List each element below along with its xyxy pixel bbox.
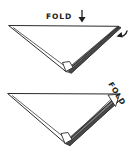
diagram-canvas: FOLD: [0, 0, 131, 158]
step-2-left-crease: [13, 96, 69, 141]
step-2-right-crease: [69, 97, 114, 140]
step-1-curl-arrow-icon: [117, 31, 128, 38]
step-1-fold-label: FOLD: [46, 12, 72, 21]
fold-instruction-illustration: FOLD: [0, 0, 131, 158]
step-1-left-crease: [14, 28, 70, 70]
step-1-figure: FOLD: [9, 11, 127, 74]
step-1-down-arrow-icon: [78, 11, 85, 23]
step-1-right-crease: [71, 29, 116, 69]
step-1-fold-band-shadow: [69, 27, 121, 73]
step-2-fold-band-shadow: [67, 101, 119, 146]
step-2-figure: FOLD: [8, 80, 128, 145]
